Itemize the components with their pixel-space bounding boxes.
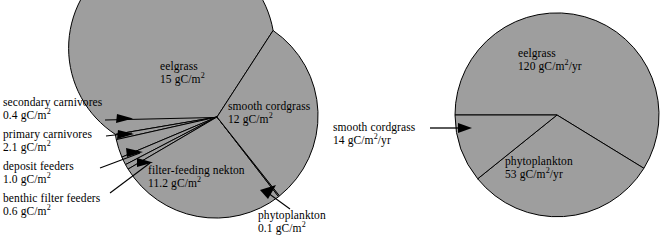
- right-pie-group: [430, 13, 659, 217]
- label-left-eelgrass-value: 15 gC/m2: [160, 73, 205, 86]
- label-right-eelgrass-name: eelgrass: [518, 47, 582, 60]
- label-left-benthic-filter-feeders: benthic filter feeders 0.6 gC/m2: [3, 192, 100, 218]
- label-right-phytoplankton-value: 53 gC/m2/yr: [505, 168, 573, 181]
- label-left-smooth-cordgrass: smooth cordgrass 12 gC/m2: [228, 100, 310, 126]
- label-left-benthic-filter-feeders-value: 0.6 gC/m2: [3, 205, 100, 218]
- label-left-secondary-carnivores: secondary carnivores 0.4 gC/m2: [3, 96, 102, 122]
- label-left-primary-carnivores: primary carnivores 2.1 gC/m2: [3, 128, 92, 154]
- label-right-smooth-cordgrass: smooth cordgrass 14 gC/m2/yr: [333, 121, 415, 147]
- label-right-phytoplankton: phytoplankton 53 gC/m2/yr: [505, 155, 573, 181]
- label-left-eelgrass: eelgrass 15 gC/m2: [160, 60, 205, 86]
- label-right-eelgrass: eelgrass 120 gC/m2/yr: [518, 47, 582, 73]
- label-left-phytoplankton-value: 0.1 gC/m2: [258, 222, 326, 235]
- label-left-deposit-feeders-name: deposit feeders: [3, 160, 74, 173]
- label-left-phytoplankton: phytoplankton 0.1 gC/m2: [258, 209, 326, 235]
- label-left-eelgrass-name: eelgrass: [160, 60, 205, 73]
- label-left-deposit-feeders-value: 1.0 gC/m2: [3, 173, 74, 186]
- label-right-eelgrass-value: 120 gC/m2/yr: [518, 60, 582, 73]
- label-left-smooth-cordgrass-value: 12 gC/m2: [228, 113, 310, 126]
- label-left-primary-carnivores-value: 2.1 gC/m2: [3, 141, 92, 154]
- label-left-secondary-carnivores-name: secondary carnivores: [3, 96, 102, 109]
- label-left-phytoplankton-name: phytoplankton: [258, 209, 326, 222]
- label-right-phytoplankton-name: phytoplankton: [505, 155, 573, 168]
- label-left-benthic-filter-feeders-name: benthic filter feeders: [3, 192, 100, 205]
- label-left-secondary-carnivores-value: 0.4 gC/m2: [3, 109, 102, 122]
- label-left-filter-feeding-nekton: filter-feeding nekton 11.2 gC/m2: [148, 164, 245, 190]
- label-right-smooth-cordgrass-value: 14 gC/m2/yr: [333, 134, 415, 147]
- label-left-deposit-feeders: deposit feeders 1.0 gC/m2: [3, 160, 74, 186]
- pie-chart-figure: eelgrass 15 gC/m2 smooth cordgrass 12 gC…: [0, 0, 667, 238]
- label-left-filter-feeding-nekton-value: 11.2 gC/m2: [148, 177, 245, 190]
